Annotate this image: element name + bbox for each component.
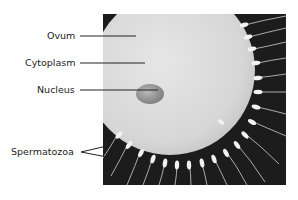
- ovum-label: Ovum: [47, 31, 75, 41]
- spermatozoa-leader-2: [81, 152, 107, 157]
- spermatozoa-leader-1: [81, 146, 107, 152]
- nucleus-label: Nucleus: [37, 85, 75, 95]
- leader-lines: [0, 0, 298, 200]
- cytoplasm-label: Cytoplasm: [25, 58, 76, 68]
- spermatozoa-label: Spermatozoa: [11, 147, 74, 157]
